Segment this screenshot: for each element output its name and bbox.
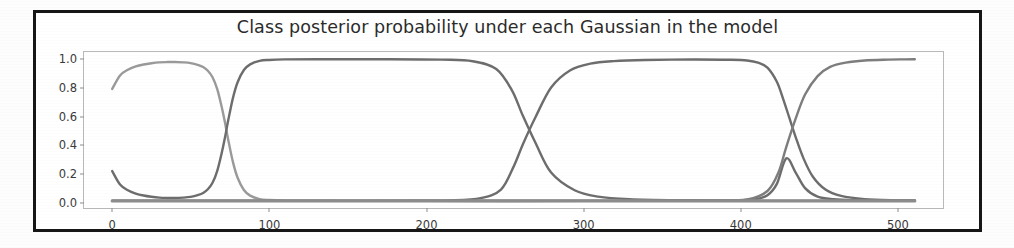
y-axis-tick-label: 1.0: [59, 52, 77, 66]
y-axis-tick-mark: [80, 116, 84, 117]
y-axis-tick-label: 0.0: [59, 196, 77, 210]
figure-frame: Class posterior probability under each G…: [33, 10, 982, 232]
series-line-gaussian-3-posterior: [112, 60, 915, 201]
y-axis-tick-mark: [80, 145, 84, 146]
y-axis-tick-label: 0.8: [59, 81, 77, 95]
x-axis-tick-mark: [112, 208, 113, 212]
y-axis-tick-label: 0.6: [59, 110, 77, 124]
x-axis-tick-mark: [740, 208, 741, 212]
chart-canvas: [84, 52, 943, 208]
plot-area: 0.00.20.40.60.81.00100200300400500: [83, 51, 944, 209]
chart-title: Class posterior probability under each G…: [36, 17, 979, 37]
x-axis-tick-label: 200: [416, 218, 438, 232]
x-axis-tick-mark: [426, 208, 427, 212]
x-axis-tick-label: 0: [109, 218, 116, 232]
x-axis-tick-label: 500: [887, 218, 909, 232]
x-axis-tick-mark: [897, 208, 898, 212]
y-axis-tick-label: 0.4: [59, 138, 77, 152]
x-axis-tick-label: 300: [573, 218, 595, 232]
x-axis-tick-mark: [583, 208, 584, 212]
y-axis-tick-mark: [80, 174, 84, 175]
y-axis-tick-label: 0.2: [59, 167, 77, 181]
x-axis-tick-label: 400: [730, 218, 752, 232]
x-axis-tick-label: 100: [258, 218, 280, 232]
y-axis-tick-mark: [80, 202, 84, 203]
y-axis-tick-mark: [80, 87, 84, 88]
x-axis-tick-mark: [269, 208, 270, 212]
scanned-page: Class posterior probability under each G…: [0, 0, 1014, 248]
y-axis-tick-mark: [80, 59, 84, 60]
